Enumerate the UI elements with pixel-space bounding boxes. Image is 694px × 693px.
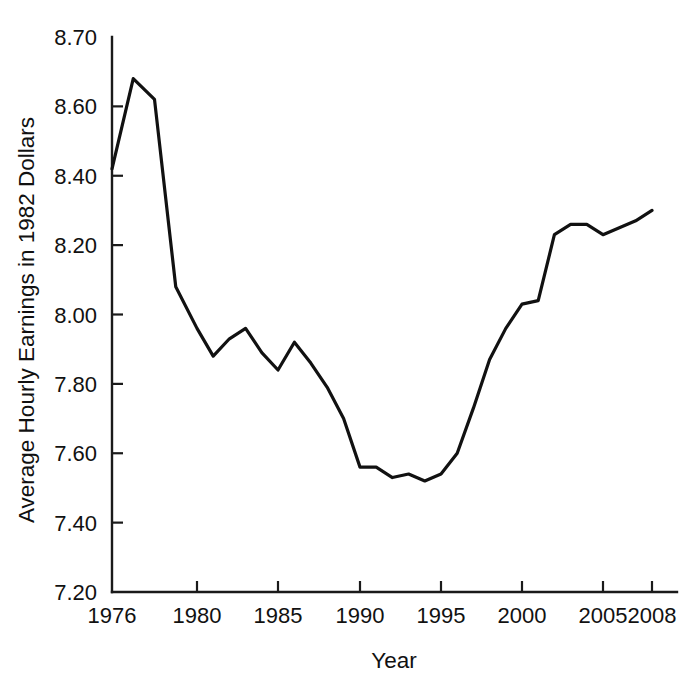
- y-tick-label: 7.60: [54, 441, 97, 466]
- x-tick-label: 1990: [336, 603, 385, 628]
- chart-canvas: 7.207.407.607.808.008.208.408.608.70 197…: [0, 0, 694, 693]
- x-tick-label: 2005: [579, 603, 628, 628]
- y-tick-label: 7.20: [54, 580, 97, 605]
- x-tick-label: 1995: [417, 603, 466, 628]
- y-tick-label: 8.40: [54, 164, 97, 189]
- y-tick-label: 8.60: [54, 94, 97, 119]
- chart-background: [0, 0, 694, 693]
- chart-figure: 7.207.407.607.808.008.208.408.608.70 197…: [0, 0, 694, 693]
- x-tick-label: 1985: [254, 603, 303, 628]
- y-tick-label: 8.20: [54, 233, 97, 258]
- x-tick-label: 2000: [498, 603, 547, 628]
- x-tick-label: 2008: [628, 603, 677, 628]
- x-tick-label: 1976: [88, 603, 137, 628]
- y-tick-label: 8.70: [54, 25, 97, 50]
- y-tick-label: 8.00: [54, 303, 97, 328]
- y-axis-title: Average Hourly Earnings in 1982 Dollars: [14, 117, 39, 523]
- x-axis-title: Year: [371, 648, 417, 673]
- y-tick-label: 7.80: [54, 372, 97, 397]
- y-tick-label: 7.40: [54, 511, 97, 536]
- x-tick-label: 1980: [173, 603, 222, 628]
